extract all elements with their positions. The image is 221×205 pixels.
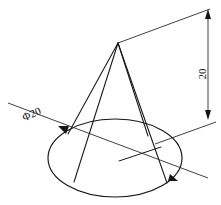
height-extension-line [118, 9, 210, 43]
diameter-dimension-label: Φ20 [20, 104, 43, 123]
technical-drawing-canvas: 20 Φ20 [0, 0, 221, 205]
base-extension-line-right [155, 122, 216, 144]
height-arrow-down-icon [205, 110, 211, 120]
cone-edge-left-inner [74, 43, 118, 182]
base-center-line [119, 147, 161, 161]
cone-drawing-svg: 20 Φ20 [0, 0, 221, 205]
diameter-arrow-right-icon [168, 174, 178, 181]
cone-base-ellipse [48, 119, 182, 197]
height-dimension-label: 20 [196, 68, 208, 80]
cone-edge-right-outer [118, 43, 167, 183]
